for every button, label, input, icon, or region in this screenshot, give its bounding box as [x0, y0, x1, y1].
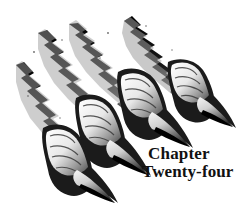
chapter-label: Chapter — [141, 145, 247, 163]
chapter-heading-illustration: Chapter Twenty-four — [0, 0, 247, 212]
chapter-number-label: Twenty-four — [141, 163, 247, 181]
chapter-caption: Chapter Twenty-four — [141, 145, 247, 182]
